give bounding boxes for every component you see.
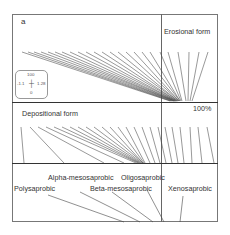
scale-legend: 100 -1.1 ┼ 1.28 0: [15, 70, 48, 99]
alpha-mesosaprobic-label: Alpha-mesosaprobic: [48, 174, 114, 181]
legend-left-value: -1.1: [17, 82, 25, 86]
panel-label: a: [21, 18, 25, 26]
top-panel-lines: [22, 52, 208, 101]
polysaprobic-label: Polysaprobic: [14, 185, 55, 192]
beta-mesosaprobic-label: Beta-mesosaprobic: [90, 185, 152, 192]
percent-label: 100%: [193, 105, 211, 112]
oligosaprobic-label: Oligosaprobic: [121, 174, 165, 181]
middle-panel-lines: [21, 127, 214, 163]
legend-top-value: 100: [27, 73, 34, 77]
legend-bottom-value: 0: [30, 91, 32, 95]
bottom-panel-leaders: [48, 190, 183, 222]
depositional-form-label: Depositional form: [22, 110, 78, 117]
crosshair-icon: ┼: [29, 80, 34, 87]
legend-right-value: 1.28: [37, 82, 46, 86]
erosional-form-label: Erosional form: [164, 28, 210, 35]
xenosaprobic-label: Xenosaprobic: [168, 185, 212, 192]
